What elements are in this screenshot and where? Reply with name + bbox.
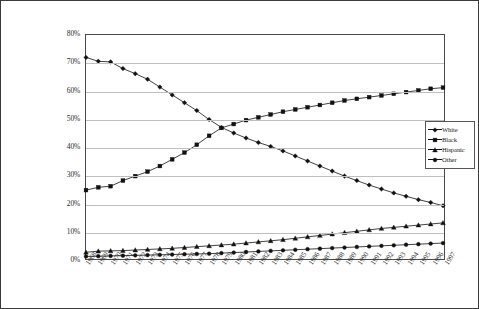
gridline-20% xyxy=(86,205,444,206)
marker-black-1984 xyxy=(281,110,285,114)
marker-white-1993 xyxy=(391,191,396,196)
marker-other-1986 xyxy=(306,247,310,251)
legend-item-white[interactable]: White xyxy=(428,125,472,134)
gridline-60% xyxy=(86,92,444,93)
gridline-70% xyxy=(86,63,444,64)
marker-white-1984 xyxy=(281,149,286,154)
marker-black-1985 xyxy=(293,108,297,112)
series-layer xyxy=(86,35,444,259)
marker-white-1971 xyxy=(121,66,126,71)
y-tick-40%: 40% xyxy=(67,143,80,151)
marker-white-1982 xyxy=(256,140,261,145)
x-tick-1997: 1997 xyxy=(443,251,457,267)
marker-white-1975 xyxy=(170,93,175,98)
marker-black-1970 xyxy=(109,184,113,188)
marker-black-1977 xyxy=(195,143,199,147)
marker-other-1995 xyxy=(416,242,420,246)
marker-white-1986 xyxy=(305,159,310,164)
marker-white-1988 xyxy=(330,169,335,174)
series-line-hispanic xyxy=(86,223,443,252)
marker-white-1976 xyxy=(182,101,187,106)
marker-black-1996 xyxy=(429,87,433,91)
marker-black-1968 xyxy=(84,188,88,192)
marker-white-1990 xyxy=(355,178,360,183)
marker-other-1993 xyxy=(392,243,396,247)
marker-white-1995 xyxy=(416,197,421,202)
marker-other-1989 xyxy=(343,246,347,250)
series-line-black xyxy=(86,88,443,190)
marker-black-1973 xyxy=(146,170,150,174)
series-line-white xyxy=(86,57,443,205)
marker-other-1992 xyxy=(380,244,384,248)
gridline-10% xyxy=(86,233,444,234)
marker-black-1979 xyxy=(220,126,224,130)
marker-white-1973 xyxy=(145,77,150,82)
marker-black-1975 xyxy=(170,157,174,161)
y-tick-70%: 70% xyxy=(67,58,80,66)
marker-white-1968 xyxy=(84,55,89,60)
chart-legend: WhiteBlackHispanicOther xyxy=(425,121,475,169)
gridline-50% xyxy=(86,120,444,121)
y-tick-10%: 10% xyxy=(67,228,80,236)
y-tick-0%: 0% xyxy=(70,256,80,264)
marker-other-1984 xyxy=(281,248,285,252)
marker-black-1997 xyxy=(441,86,445,90)
marker-other-1996 xyxy=(429,242,433,246)
y-tick-50%: 50% xyxy=(67,115,80,123)
triangle-marker-icon xyxy=(428,145,442,154)
marker-other-1994 xyxy=(404,243,408,247)
legend-item-hispanic[interactable]: Hispanic xyxy=(428,145,472,154)
diamond-marker-icon xyxy=(428,125,442,134)
marker-black-1989 xyxy=(343,99,347,103)
legend-label-hispanic: Hispanic xyxy=(442,146,465,154)
marker-black-1987 xyxy=(318,103,322,107)
marker-white-1985 xyxy=(293,154,298,159)
square-marker-icon xyxy=(428,135,442,144)
gridline-30% xyxy=(86,176,444,177)
circle-marker-icon xyxy=(428,155,442,164)
marker-black-1980 xyxy=(232,122,236,126)
marker-other-1983 xyxy=(269,249,273,253)
y-tick-80%: 80% xyxy=(67,30,80,38)
marker-black-1974 xyxy=(158,164,162,168)
y-tick-20%: 20% xyxy=(67,200,80,208)
marker-black-1988 xyxy=(330,101,334,105)
marker-white-1972 xyxy=(133,71,138,76)
series-white xyxy=(84,55,446,208)
marker-black-1986 xyxy=(306,105,310,109)
marker-black-1990 xyxy=(355,97,359,101)
chart-figure: 0%10%20%30%40%50%60%70%80% 1968196919701… xyxy=(0,0,479,309)
marker-black-1991 xyxy=(367,95,371,99)
marker-white-1991 xyxy=(367,183,372,188)
plot-wrapper: 0%10%20%30%40%50%60%70%80% 1968196919701… xyxy=(34,5,446,257)
marker-white-1992 xyxy=(379,187,384,192)
marker-black-1969 xyxy=(96,185,100,189)
legend-label-other: Other xyxy=(442,156,457,164)
marker-black-1978 xyxy=(207,134,211,138)
legend-label-white: White xyxy=(442,126,458,134)
marker-white-1987 xyxy=(318,164,323,169)
marker-other-1997 xyxy=(441,241,445,245)
series-hispanic xyxy=(84,221,446,255)
marker-white-1994 xyxy=(404,194,409,199)
y-axis-tick-labels: 0%10%20%30%40%50%60%70%80% xyxy=(34,34,80,260)
marker-black-1983 xyxy=(269,113,273,117)
x-axis-tick-labels: 1968196919701971197219731974197519761977… xyxy=(85,260,445,309)
marker-black-1971 xyxy=(121,179,125,183)
marker-black-1992 xyxy=(380,94,384,98)
legend-item-other[interactable]: Other xyxy=(428,155,472,164)
marker-other-1987 xyxy=(318,247,322,251)
marker-black-1982 xyxy=(256,115,260,119)
plot-area xyxy=(85,34,445,260)
marker-other-1985 xyxy=(293,248,297,252)
legend-label-black: Black xyxy=(442,136,457,144)
legend-item-black[interactable]: Black xyxy=(428,135,472,144)
marker-other-1990 xyxy=(355,245,359,249)
marker-white-1981 xyxy=(244,136,249,141)
marker-white-1974 xyxy=(158,85,163,90)
marker-other-1988 xyxy=(330,246,334,250)
marker-white-1980 xyxy=(231,131,236,136)
marker-black-1976 xyxy=(183,151,187,155)
y-tick-60%: 60% xyxy=(67,87,80,95)
marker-other-1991 xyxy=(367,245,371,249)
